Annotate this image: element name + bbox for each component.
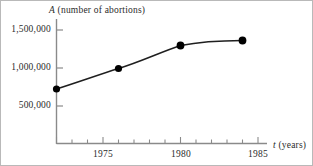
y-axis-unit: (number of abortions) [58,5,146,15]
data-line [57,41,243,90]
x-axis-title: t (years) [273,141,306,151]
x-tick-label-1975: 1975 [83,150,123,160]
x-tick-label-1985: 1985 [238,150,278,160]
data-point-1976 [115,65,122,72]
data-point-1984 [239,37,247,45]
y-axis-title: A (number of abortions) [49,6,145,16]
x-tick-label-1980: 1980 [161,150,201,160]
data-point-1980 [177,42,185,50]
y-axis-ticks [57,30,64,106]
abortion-count-line-chart: 1,500,000 1,000,000 500,000 1975 1980 19… [0,0,313,166]
x-axis-unit: (years) [278,140,306,150]
y-tick-label-1000000: 1,000,000 [1,63,51,73]
data-point-markers [53,37,247,93]
y-tick-label-1500000: 1,500,000 [1,25,51,35]
data-point-1972 [53,85,60,92]
y-tick-label-500000: 500,000 [1,101,51,111]
x-axis-ticks [57,137,259,144]
